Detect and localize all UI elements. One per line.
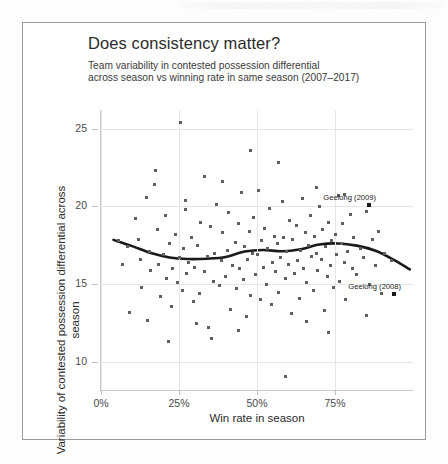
scatter-point <box>140 286 143 289</box>
scatter-point <box>265 283 268 286</box>
scatter-point <box>235 287 238 290</box>
scatter-point <box>176 281 179 284</box>
scatter-point <box>185 272 188 275</box>
scatter-point <box>318 205 321 208</box>
scatter-point <box>121 263 124 266</box>
scatter-point <box>171 267 174 270</box>
scatter-point <box>365 314 368 317</box>
scatter-point <box>256 253 259 256</box>
scatter-point <box>335 253 338 256</box>
scatter-point <box>237 329 240 332</box>
scatter-point <box>359 247 362 250</box>
scatter-point <box>126 245 129 248</box>
y-tick <box>92 284 98 285</box>
scatter-point <box>260 239 263 242</box>
scatter-point <box>240 191 243 194</box>
scatter-point <box>307 244 310 247</box>
scatter-point <box>262 266 265 269</box>
y-axis-title-text: Variability of contested possession diff… <box>55 186 81 455</box>
x-tick <box>101 390 102 395</box>
highlighted-scatter-point <box>367 203 371 207</box>
scatter-point <box>365 210 368 213</box>
scatter-point <box>148 250 151 253</box>
scatter-point <box>344 298 347 301</box>
scatter-point <box>257 189 260 192</box>
scatter-point <box>165 277 168 280</box>
scatter-point <box>254 273 257 276</box>
scatter-point <box>221 180 224 183</box>
scatter-point <box>184 199 187 202</box>
scatter-point <box>266 247 269 250</box>
scatter-point <box>305 320 308 323</box>
chart-subtitle: Team variability in contested possession… <box>88 60 359 85</box>
scatter-point <box>128 311 131 314</box>
scatter-point <box>315 186 318 189</box>
scatter-point <box>383 252 386 255</box>
scatter-point <box>390 259 393 262</box>
chart-title: Does consistency matter? <box>88 34 280 53</box>
scatter-point <box>281 200 284 203</box>
scatter-point <box>323 309 326 312</box>
scatter-point <box>371 238 374 241</box>
scatter-point <box>291 238 294 241</box>
scatter-point <box>274 270 277 273</box>
chart-subtitle-line1: Team variability in contested possession… <box>88 60 359 72</box>
scatter-point <box>229 308 232 311</box>
scatter-point <box>310 255 313 258</box>
scatter-point <box>153 183 156 186</box>
x-tick <box>179 390 180 395</box>
scatter-point <box>196 244 199 247</box>
scatter-point <box>362 256 365 259</box>
scatter-point <box>293 272 296 275</box>
scatter-point <box>206 255 209 258</box>
scatter-point <box>316 269 319 272</box>
scatter-point <box>374 264 377 267</box>
scatter-point <box>326 275 329 278</box>
scatter-point <box>246 258 249 261</box>
y-tick <box>92 129 98 130</box>
scatter-point <box>324 245 327 248</box>
scatter-point <box>242 278 245 281</box>
scatter-point <box>213 252 216 255</box>
y-axis-title-container: Variability of contested possession diff… <box>44 110 72 390</box>
scatter-point <box>154 169 157 172</box>
scatter-point <box>343 261 346 264</box>
scatter-point <box>332 286 335 289</box>
scatter-point <box>117 239 120 242</box>
x-gridline <box>257 110 258 390</box>
scatter-point <box>252 216 255 219</box>
scatter-point <box>212 280 215 283</box>
x-gridline <box>335 110 336 390</box>
scatter-point <box>164 214 167 217</box>
scatter-point <box>221 231 224 234</box>
point-annotation: Geelong (2009) <box>323 193 376 202</box>
x-tick-label: 25% <box>149 397 209 409</box>
y-axis-title: Variability of contested possession diff… <box>54 170 82 464</box>
scatter-point <box>174 233 177 236</box>
scatter-point <box>179 121 182 124</box>
scatter-point <box>237 222 240 225</box>
x-tick <box>335 390 336 395</box>
scatter-point <box>263 227 266 230</box>
scatter-point <box>338 280 341 283</box>
scatter-point <box>346 250 349 253</box>
scatter-point <box>190 236 193 239</box>
scatter-point <box>170 305 173 308</box>
scatter-point <box>321 228 324 231</box>
scatter-point <box>320 258 323 261</box>
scatter-point <box>145 196 148 199</box>
scatter-point <box>349 213 352 216</box>
scatter-point <box>146 319 149 322</box>
scatter-point <box>304 231 307 234</box>
scatter-point <box>168 242 171 245</box>
scatter-point <box>248 230 251 233</box>
scatter-point <box>220 259 223 262</box>
scatter-point <box>203 270 206 273</box>
scatter-point <box>340 242 343 245</box>
scatter-point <box>238 267 241 270</box>
scatter-point <box>227 211 230 214</box>
scatter-point <box>276 242 279 245</box>
figure-page: Does consistency matter? Team variabilit… <box>0 0 448 464</box>
scatter-point <box>193 266 196 269</box>
scatter-point <box>182 247 185 250</box>
